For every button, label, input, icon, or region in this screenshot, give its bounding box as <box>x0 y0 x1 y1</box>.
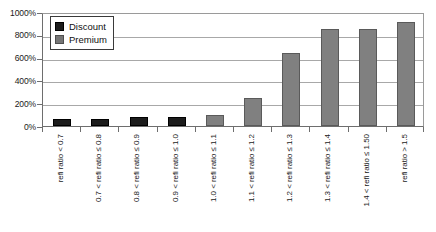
x-axis-category-label: refi ratio > 1.5 <box>401 134 409 182</box>
x-axis-tick-mark <box>271 127 272 132</box>
bar <box>91 119 109 126</box>
x-axis-tick-mark <box>423 127 424 132</box>
x-axis-label-slot: refi ratio < 0.7 <box>42 134 80 230</box>
x-axis-label-slot: refi ratio > 1.5 <box>386 134 424 230</box>
y-axis-tick-labels: 1000%800%600%400%200%0% <box>0 0 36 232</box>
x-axis-category-label: 1.0 < refi ratio ≤ 1.1 <box>210 134 218 202</box>
x-axis-tick-mark <box>42 127 43 132</box>
x-axis-category-label: 1.3 < refi ratio ≤ 1.4 <box>324 134 332 202</box>
x-axis-label-slot: 0.8 < refi ratio ≤ 0.9 <box>118 134 156 230</box>
x-axis-category-label: 0.9 < refi ratio ≤ 1.0 <box>172 134 180 202</box>
x-axis-tick-mark <box>80 127 81 132</box>
x-axis-label-slot: 0.9 < refi ratio ≤ 1.0 <box>157 134 195 230</box>
x-axis-category-label: 1.4 < refi ratio ≤ 1.50 <box>363 134 371 206</box>
x-axis-category-label: 0.8 < refi ratio ≤ 0.9 <box>133 134 141 202</box>
bar <box>359 29 377 126</box>
y-axis-tick-mark <box>37 36 42 37</box>
x-axis-tick-marks <box>42 127 424 133</box>
y-axis-tick-label: 0% <box>0 123 36 132</box>
legend-swatch-icon <box>55 22 64 31</box>
bar <box>244 98 262 127</box>
y-axis-tick-mark <box>37 59 42 60</box>
x-axis-category-labels: refi ratio < 0.70.7 < refi ratio ≤ 0.80.… <box>42 134 424 230</box>
x-axis-category-label: refi ratio < 0.7 <box>57 134 65 182</box>
x-axis-label-slot: 1.0 < refi ratio ≤ 1.1 <box>195 134 233 230</box>
x-axis-tick-mark <box>348 127 349 132</box>
y-axis-tick-label: 600% <box>0 54 36 63</box>
x-axis-tick-mark <box>233 127 234 132</box>
x-axis-tick-mark <box>118 127 119 132</box>
y-axis-tick-mark <box>37 127 42 128</box>
bar <box>53 119 71 126</box>
bar <box>321 29 339 126</box>
legend-entry: Discount <box>55 20 107 33</box>
x-axis-category-label: 1.2 < refi ratio ≤ 1.3 <box>286 134 294 202</box>
y-axis-tick-label: 400% <box>0 77 36 86</box>
bar <box>206 115 224 126</box>
bar <box>282 53 300 126</box>
x-axis-tick-mark <box>195 127 196 132</box>
y-axis-tick-label: 800% <box>0 31 36 40</box>
x-axis-category-label: 1.1 < refi ratio ≤ 1.2 <box>248 134 256 202</box>
x-axis-label-slot: 1.4 < refi ratio ≤ 1.50 <box>348 134 386 230</box>
chart-legend: DiscountPremium <box>50 16 114 50</box>
y-axis-tick-mark <box>37 13 42 14</box>
x-axis-tick-mark <box>157 127 158 132</box>
legend-swatch-icon <box>55 35 64 44</box>
bar <box>130 117 148 126</box>
legend-label: Premium <box>69 35 107 45</box>
y-axis-tick-mark <box>37 81 42 82</box>
x-axis-tick-mark <box>386 127 387 132</box>
x-axis-tick-mark <box>309 127 310 132</box>
x-axis-category-label: 0.7 < refi ratio ≤ 0.8 <box>95 134 103 202</box>
y-axis-tick-mark <box>37 104 42 105</box>
y-axis-tick-label: 1000% <box>0 9 36 18</box>
bar-chart: 1000%800%600%400%200%0% DiscountPremium … <box>0 0 436 232</box>
legend-entry: Premium <box>55 33 107 46</box>
bar <box>168 117 186 126</box>
y-axis-tick-label: 200% <box>0 100 36 109</box>
x-axis-label-slot: 0.7 < refi ratio ≤ 0.8 <box>80 134 118 230</box>
bar <box>397 22 415 126</box>
x-axis-label-slot: 1.2 < refi ratio ≤ 1.3 <box>271 134 309 230</box>
x-axis-label-slot: 1.3 < refi ratio ≤ 1.4 <box>309 134 347 230</box>
legend-label: Discount <box>69 22 106 32</box>
x-axis-label-slot: 1.1 < refi ratio ≤ 1.2 <box>233 134 271 230</box>
